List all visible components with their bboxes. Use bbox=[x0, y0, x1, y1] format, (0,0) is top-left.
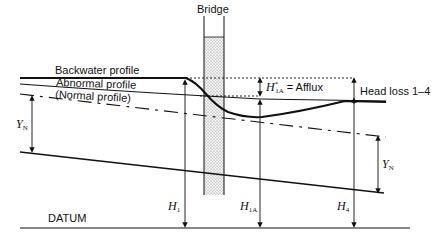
yn-right-label: YN bbox=[382, 157, 394, 172]
channel-bed bbox=[20, 152, 384, 193]
afflux-label: H*1A= Afflux bbox=[265, 80, 323, 95]
datum-label: DATUM bbox=[48, 212, 86, 224]
bridge-label: Bridge bbox=[197, 3, 229, 15]
yn-left-label: YN bbox=[16, 117, 28, 132]
h1a-label: H1A bbox=[239, 199, 257, 214]
h1-label: H1 bbox=[167, 199, 181, 214]
bridge-afflux-diagram: Bridge Backwater profile Abnormal profil… bbox=[0, 0, 439, 244]
bridge-pier bbox=[204, 16, 224, 195]
normal-profile-label: (Normal profile) bbox=[55, 88, 131, 104]
head-loss-label: Head loss 1–4 bbox=[360, 85, 430, 97]
h4-label: H4 bbox=[336, 199, 350, 214]
backwater-profile-label: Backwater profile bbox=[55, 64, 139, 76]
